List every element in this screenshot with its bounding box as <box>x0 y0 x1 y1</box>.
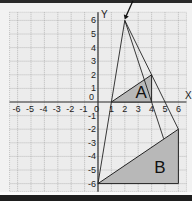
x-tick-label: 3 <box>136 104 141 114</box>
x-tick-label: -3 <box>53 104 61 114</box>
y-tick-label: -3 <box>88 138 96 148</box>
triangle-a-label: A <box>136 83 148 102</box>
x-tick-label: -5 <box>26 104 34 114</box>
y-tick-label: -1 <box>88 111 96 121</box>
y-tick-label: -6 <box>88 179 96 189</box>
x-tick-label: 6 <box>176 104 181 114</box>
triangle-b-label: B <box>154 158 165 177</box>
y-tick-label: -4 <box>88 151 96 161</box>
origin-label: 0 <box>89 92 94 102</box>
x-tick-label: -1 <box>80 104 88 114</box>
x-tick-label: -6 <box>13 104 21 114</box>
x-axis-label: X <box>185 90 192 101</box>
y-tick-label: 1 <box>91 83 96 93</box>
y-tick-label: 5 <box>91 29 96 39</box>
bottom-border <box>0 195 192 201</box>
x-tick-label: -4 <box>39 104 47 114</box>
y-tick-label: -2 <box>88 124 96 134</box>
x-tick-label: 5 <box>163 104 168 114</box>
x-tick-label: 2 <box>122 104 127 114</box>
y-tick-label: 4 <box>91 43 96 53</box>
x-tick-label: 1 <box>109 104 114 114</box>
y-tick-label: 2 <box>91 70 96 80</box>
x-tick-label: -2 <box>66 104 74 114</box>
x-tick-label: 4 <box>149 104 154 114</box>
y-tick-label: -5 <box>88 165 96 175</box>
y-axis-label: Y <box>101 9 108 20</box>
coordinate-plane: -6-5-4-3-2-112345600654321-1-2-3-4-5-6XY… <box>0 0 192 201</box>
y-tick-label: 3 <box>91 56 96 66</box>
y-tick-label: 6 <box>91 15 96 25</box>
